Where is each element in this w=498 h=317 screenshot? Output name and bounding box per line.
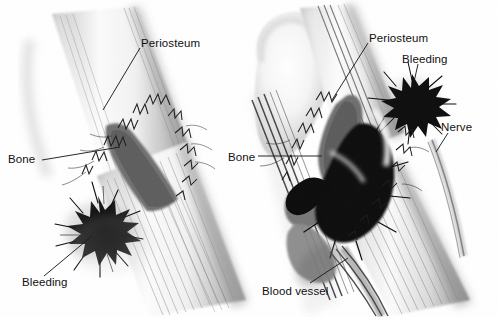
label-right-bone: Bone bbox=[228, 152, 255, 164]
illustration-page: Periosteum Bone Bleeding Periosteum Blee… bbox=[0, 0, 498, 317]
label-right-periosteum: Periosteum bbox=[369, 33, 428, 45]
label-left-bone: Bone bbox=[8, 154, 35, 166]
label-left-bleeding: Bleeding bbox=[22, 277, 68, 289]
label-left-periosteum: Periosteum bbox=[141, 38, 200, 50]
label-right-bleeding: Bleeding bbox=[402, 54, 448, 66]
label-right-nerve: Nerve bbox=[441, 122, 472, 134]
label-right-blood-vessel: Blood vessel bbox=[262, 286, 328, 298]
